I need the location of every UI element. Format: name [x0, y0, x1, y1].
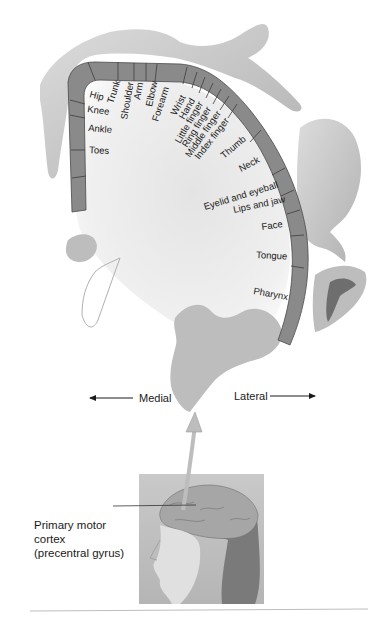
caption-line-3: (precentral gyrus) [34, 546, 124, 560]
medial-label: Medial [139, 392, 171, 404]
primary-motor-cortex-caption: Primary motor cortex (precentral gyrus) [34, 518, 124, 560]
bottom-rule [30, 609, 368, 611]
head-illustration [139, 474, 264, 604]
label-toes: Toes [89, 144, 110, 156]
label-ankle: Ankle [88, 122, 113, 135]
caption-line-1: Primary motor [34, 518, 124, 532]
lateral-label: Lateral [234, 390, 268, 402]
label-tongue: Tongue [256, 249, 288, 262]
pointer-arrow-head [186, 412, 202, 432]
caption-line-2: cortex [34, 532, 124, 546]
